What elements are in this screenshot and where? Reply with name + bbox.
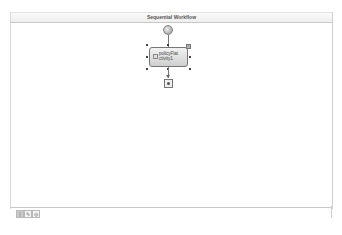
selection-handle[interactable]	[189, 68, 191, 70]
workflow-end-icon	[164, 79, 173, 88]
selection-handle[interactable]	[189, 56, 191, 58]
tab-fault-handlers-view[interactable]: ◎	[32, 210, 40, 218]
workflow-designer: Sequential Workflow	[10, 12, 333, 209]
connector-arrow-icon	[166, 75, 170, 78]
selection-handle[interactable]	[146, 68, 148, 70]
divider	[331, 206, 332, 218]
divider	[10, 207, 332, 208]
activity-icon	[153, 54, 158, 59]
tab-workflow-view[interactable]: |	[16, 210, 24, 218]
activity-policy[interactable]: policyFlat ctivity1	[149, 47, 188, 67]
workflow-start-icon	[163, 25, 173, 35]
activity-label: policyFlat ctivity1	[159, 51, 178, 61]
smart-tag-warning-icon[interactable]: !	[186, 44, 191, 49]
end-dot	[167, 82, 170, 85]
selection-handle[interactable]	[146, 44, 148, 46]
activity-label-line2: ctivity1	[159, 56, 173, 61]
view-tabs: | ✎ ◎	[16, 210, 40, 218]
selection-handle[interactable]	[146, 56, 148, 58]
selection-handle[interactable]	[167, 44, 169, 46]
designer-title: Sequential Workflow	[11, 13, 332, 23]
tab-cancel-handler-view[interactable]: ✎	[24, 210, 32, 218]
